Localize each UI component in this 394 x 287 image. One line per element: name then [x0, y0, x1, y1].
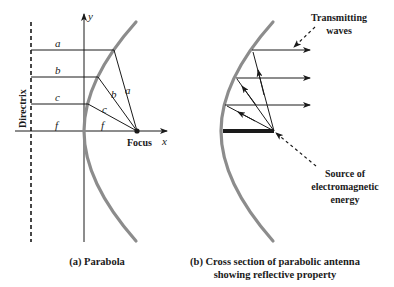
caption-a: (a) Parabola: [69, 256, 125, 268]
label-b-left: b: [55, 64, 61, 76]
label-f-right: f: [101, 119, 106, 131]
x-axis-label: x: [161, 135, 167, 147]
y-axis-label: y: [87, 10, 93, 22]
label-c-right: c: [102, 103, 107, 115]
focus-point: [134, 128, 139, 133]
transmit-label-line2: waves: [326, 25, 352, 36]
segment-c-to-focus: [88, 104, 137, 131]
source-pointer: [276, 133, 316, 166]
ray-arrow-bottom: [238, 112, 255, 121]
directrix-label: Directrix: [17, 89, 28, 128]
transmit-label-line1: Transmitting: [311, 12, 367, 23]
source-label-line2: electromagnetic: [311, 181, 379, 192]
label-b-right: b: [111, 88, 117, 100]
label-f-left: f: [55, 119, 60, 131]
transmit-pointer: [294, 27, 315, 47]
label-a-right: a: [125, 84, 131, 96]
label-c-left: c: [55, 91, 60, 103]
focus-label: Focus: [127, 137, 152, 148]
parabola-diagram: a b c f a b c f y x Focus Directrix (a) …: [0, 0, 394, 287]
ray-arrow-middle: [242, 86, 256, 105]
panel-a: a b c f a b c f y x Focus Directrix (a) …: [15, 10, 167, 268]
source-label-line1: Source of: [325, 168, 366, 179]
panel-b: Transmitting waves Source of electromagn…: [190, 12, 379, 280]
label-a-left: a: [55, 37, 61, 49]
source-label-line3: energy: [331, 194, 360, 205]
ray-arrow-top: [258, 70, 264, 95]
caption-b-line2: showing reflective property: [214, 269, 337, 280]
caption-b-line1: (b) Cross section of parabolic antenna: [190, 256, 361, 268]
